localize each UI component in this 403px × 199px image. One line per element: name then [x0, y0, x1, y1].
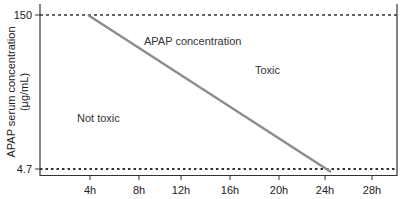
toxic-region-label: Toxic: [255, 64, 281, 76]
x-tick-label-8h: 8h: [133, 184, 145, 196]
x-tick-label-28h: 28h: [363, 184, 381, 196]
x-tick-label-4h: 4h: [84, 184, 96, 196]
y-tick-label-4.7: 4.7: [17, 163, 32, 175]
x-tick-label-16h: 16h: [221, 184, 239, 196]
x-tick-label-12h: 12h: [172, 184, 190, 196]
y-axis-label-line2: (µg/mL): [18, 73, 30, 111]
y-axis-label-line1: APAP serum concentration: [5, 26, 17, 157]
x-tick-label-20h: 20h: [270, 184, 288, 196]
x-tick-label-24h: 24h: [316, 184, 334, 196]
y-tick-label-150: 150: [14, 9, 32, 21]
not-toxic-region-label: Not toxic: [77, 112, 120, 124]
line-annotation: APAP concentration: [144, 35, 241, 47]
chart: 4h 8h 12h 16h 20h 24h 28h 150 4.7 APAP s…: [0, 0, 403, 199]
